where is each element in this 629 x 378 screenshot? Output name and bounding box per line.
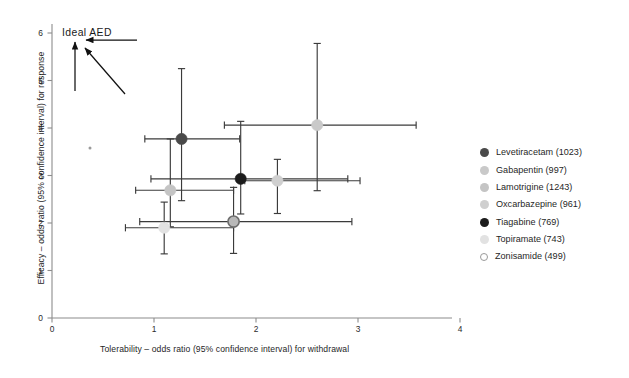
legend-item-label: Zonisamide (499) [495, 252, 566, 261]
x-tick-label: 0 [44, 324, 60, 334]
error-bar-zonisamide [140, 187, 352, 253]
ideal-aed-annotation: Ideal AED [62, 27, 112, 38]
legend-item-levetiracetam[interactable]: Levetiracetam (1023) [480, 144, 628, 161]
x-tick-label: 2 [248, 324, 264, 334]
legend-item-tiagabine[interactable]: Tiagabine (769) [480, 214, 628, 231]
legend-item-lamotrigine[interactable]: Lamotrigine (1243) [480, 179, 628, 196]
legend: Levetiracetam (1023)Gabapentin (997)Lamo… [480, 144, 628, 266]
y-axis-title: Efficacy – odds ratio (95% confidence in… [36, 23, 46, 313]
legend-marker-icon [480, 235, 489, 244]
data-point-topiramate [159, 222, 170, 233]
legend-marker-icon [480, 218, 489, 227]
x-tick-label: 1 [146, 324, 162, 334]
y-tick-label: 0 [29, 313, 43, 323]
legend-item-label: Levetiracetam (1023) [496, 148, 582, 157]
error-bars [125, 43, 416, 253]
legend-item-label: Oxcarbazepine (961) [496, 200, 581, 209]
ideal-aed-arrows [75, 40, 137, 94]
legend-item-gabapentin[interactable]: Gabapentin (997) [480, 161, 628, 178]
error-bar-topiramate [125, 202, 233, 254]
stray-marker-dot [89, 147, 92, 150]
legend-marker-icon [480, 148, 489, 157]
data-point-oxcarbazepine [272, 175, 283, 186]
legend-item-label: Gabapentin (997) [496, 166, 567, 175]
data-point-gabapentin [312, 120, 323, 131]
legend-marker-icon [480, 253, 488, 261]
legend-marker-icon [480, 183, 489, 192]
data-point-zonisamide [228, 216, 239, 227]
legend-item-label: Tiagabine (769) [496, 218, 559, 227]
legend-item-topiramate[interactable]: Topiramate (743) [480, 231, 628, 248]
error-bar-gabapentin [224, 43, 416, 190]
x-tick-label: 3 [350, 324, 366, 334]
data-point-levetiracetam [176, 133, 187, 144]
axis-lines [52, 24, 452, 318]
legend-item-zonisamide[interactable]: Zonisamide (499) [480, 248, 628, 265]
error-bar-lamotrigine [136, 139, 234, 227]
data-point-tiagabine [235, 173, 246, 184]
error-bar-levetiracetam [145, 69, 240, 201]
x-axis-title: Tolerability – odds ratio (95% confidenc… [100, 344, 349, 354]
legend-item-oxcarbazepine[interactable]: Oxcarbazepine (961) [480, 196, 628, 213]
legend-marker-icon [480, 166, 489, 175]
x-tick-label: 4 [452, 324, 468, 334]
legend-item-label: Topiramate (743) [496, 235, 565, 244]
legend-marker-icon [480, 200, 489, 209]
chart-figure: 01234 0123456 Tolerability – odds ratio … [0, 0, 629, 378]
legend-item-label: Lamotrigine (1243) [496, 183, 572, 192]
data-point-lamotrigine [165, 185, 176, 196]
error-bar-oxcarbazepine [245, 159, 360, 213]
